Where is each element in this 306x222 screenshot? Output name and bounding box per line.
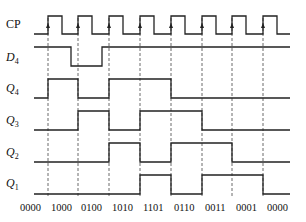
waveforms (34, 16, 290, 194)
state-label: 0000 (20, 202, 41, 213)
rising-edge-arrow-icon (261, 23, 265, 28)
rising-edge-arrow-icon (169, 23, 173, 28)
cp-waveform (34, 16, 290, 34)
state-label: 0001 (236, 202, 257, 213)
signal-labels: CPD4Q4Q3Q2Q1 (5, 17, 21, 192)
q1-waveform (34, 175, 290, 194)
clock-edge-guides (48, 18, 263, 198)
state-labels: 000010000100101011010110001100010000 (20, 202, 288, 213)
q4-waveform (34, 79, 290, 98)
rising-edge-arrow-icon (138, 23, 142, 28)
signal-label: CP (6, 17, 21, 31)
q2-waveform (34, 143, 290, 162)
rising-edge-arrow-icon (76, 23, 80, 28)
signal-label: Q3 (6, 113, 19, 129)
signal-label: Q2 (6, 145, 19, 161)
state-label: 1101 (143, 202, 164, 213)
rising-edge-arrow-icon (46, 23, 50, 28)
state-label: 0011 (205, 202, 226, 213)
rising-edge-arrow-icon (200, 23, 204, 28)
state-label: 0100 (81, 202, 102, 213)
state-label: 0110 (174, 202, 195, 213)
rising-edge-arrow-icon (230, 23, 234, 28)
q3-waveform (34, 111, 290, 130)
rising-edge-arrow-icon (107, 23, 111, 28)
state-label: 1010 (112, 202, 133, 213)
signal-label: Q4 (6, 81, 19, 97)
timing-diagram: CPD4Q4Q3Q2Q1 000010000100101011010110001… (0, 0, 306, 222)
state-label: 1000 (51, 202, 72, 213)
signal-label: D4 (5, 50, 19, 66)
d4-waveform (34, 47, 290, 66)
signal-label: Q1 (6, 176, 19, 192)
state-label: 0000 (267, 202, 288, 213)
